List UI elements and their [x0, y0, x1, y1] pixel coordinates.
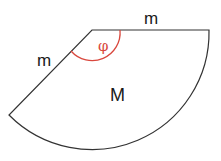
- sector-diagram: φ m m M: [0, 0, 221, 161]
- angle-arc: [71, 30, 120, 61]
- top-edge-label: m: [144, 9, 158, 28]
- sector-outline: [9, 30, 209, 150]
- left-edge-label: m: [37, 51, 51, 70]
- angle-label: φ: [98, 37, 109, 55]
- center-label: M: [110, 85, 125, 105]
